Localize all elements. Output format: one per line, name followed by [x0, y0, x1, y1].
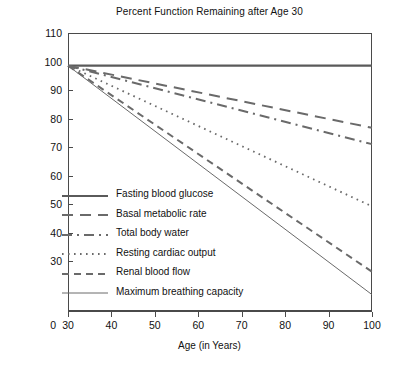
y-axis: 110 100 90 80 70 60 50 40 30	[22, 0, 62, 366]
x-tick-label: 30	[53, 319, 83, 331]
x-tick-label: 90	[314, 319, 344, 331]
legend-item: Maximum breathing capacity	[62, 282, 243, 302]
x-tick-label: 80	[270, 319, 300, 331]
x-tick-label: 100	[357, 319, 387, 331]
x-tick-mark	[155, 312, 156, 317]
x-axis-title: Age (in Years)	[0, 340, 419, 351]
legend-label: Basal metabolic rate	[116, 208, 207, 219]
y-tick-label: 60	[28, 170, 62, 182]
legend-line-swatch	[62, 207, 108, 219]
y-tick-mark	[68, 119, 73, 120]
legend-line-swatch	[62, 227, 108, 239]
legend-label: Total body water	[116, 227, 189, 238]
legend-item: Basal metabolic rate	[62, 204, 243, 224]
x-tick-mark	[329, 312, 330, 317]
x-tick-label: 70	[227, 319, 257, 331]
legend-item: Resting cardiac output	[62, 243, 243, 263]
x-tick-label: 60	[183, 319, 213, 331]
y-tick-label: 50	[28, 198, 62, 210]
chart-legend: Fasting blood glucoseBasal metabolic rat…	[62, 184, 243, 301]
legend-item: Total body water	[62, 223, 243, 243]
y-tick-label: 70	[28, 141, 62, 153]
x-axis-line	[68, 311, 372, 312]
legend-line-swatch	[62, 266, 108, 278]
chart-title: Percent Function Remaining after Age 30	[0, 6, 419, 17]
y-tick-mark	[68, 176, 73, 177]
y-tick-label: 80	[28, 113, 62, 125]
legend-label: Fasting blood glucose	[116, 188, 213, 199]
series-line	[68, 66, 372, 144]
x-tick-mark	[372, 312, 373, 317]
y-tick-label: 90	[28, 84, 62, 96]
x-tick-mark	[242, 312, 243, 317]
legend-line-swatch	[62, 285, 108, 297]
x-tick-mark	[111, 312, 112, 317]
x-tick-label: 50	[140, 319, 170, 331]
y-tick-label: 40	[28, 227, 62, 239]
chart-container: Percent Function Remaining after Age 30 …	[0, 0, 419, 366]
x-tick-mark	[285, 312, 286, 317]
y-tick-label: 100	[28, 56, 62, 68]
legend-label: Maximum breathing capacity	[116, 286, 243, 297]
legend-line-swatch	[62, 188, 108, 200]
series-line	[68, 66, 372, 128]
y-tick-mark	[68, 147, 73, 148]
y-tick-label: 30	[28, 255, 62, 267]
y-axis-origin-label: 0	[22, 319, 56, 331]
y-tick-label: 110	[28, 27, 62, 39]
legend-line-swatch	[62, 246, 108, 258]
legend-item: Fasting blood glucose	[62, 184, 243, 204]
x-tick-mark	[68, 312, 69, 317]
y-tick-mark	[68, 90, 73, 91]
x-tick-mark	[198, 312, 199, 317]
legend-label: Resting cardiac output	[116, 247, 216, 258]
legend-item: Renal blood flow	[62, 262, 243, 282]
x-tick-label: 40	[96, 319, 126, 331]
legend-label: Renal blood flow	[116, 266, 190, 277]
